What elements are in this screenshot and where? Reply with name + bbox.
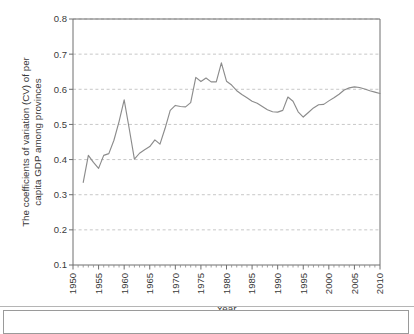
x-tick-label: 1975: [195, 273, 206, 294]
x-tick-label: 1985: [246, 273, 257, 294]
y-tick-label: 0.4: [54, 154, 67, 165]
y-tick-label: 0.2: [54, 224, 67, 235]
y-tick-label: 0.6: [54, 84, 67, 95]
y-tick-label: 0.7: [54, 49, 67, 60]
x-tick-label: 2000: [323, 273, 334, 294]
caption-box: [3, 310, 409, 334]
x-tick-label: 2005: [349, 273, 360, 294]
x-tick-label: 1965: [144, 273, 155, 294]
y-axis-title-line-2: capita GDP among provinces: [32, 78, 43, 205]
caption-divider-rule: [0, 306, 414, 307]
x-tick-label: 1995: [298, 273, 309, 294]
x-tick-label: 1990: [272, 273, 283, 294]
y-tick-label: 0.8: [54, 13, 67, 24]
y-tick-label: 0.1: [54, 259, 67, 270]
x-tick-label: 1970: [170, 273, 181, 294]
x-tick-label: 2010: [374, 273, 385, 294]
x-tick-label: 1980: [221, 273, 232, 294]
x-tick-label: 1960: [119, 273, 130, 294]
y-tick-label: 0.5: [54, 119, 67, 130]
y-tick-label: 0.3: [54, 189, 67, 200]
y-axis-title-line-1: The coefficients of variation (CV) of pe…: [20, 56, 31, 226]
series-line-cv-per-capita-gdp: [83, 63, 380, 182]
x-tick-label: 1955: [93, 273, 104, 294]
x-tick-label: 1950: [67, 273, 78, 294]
